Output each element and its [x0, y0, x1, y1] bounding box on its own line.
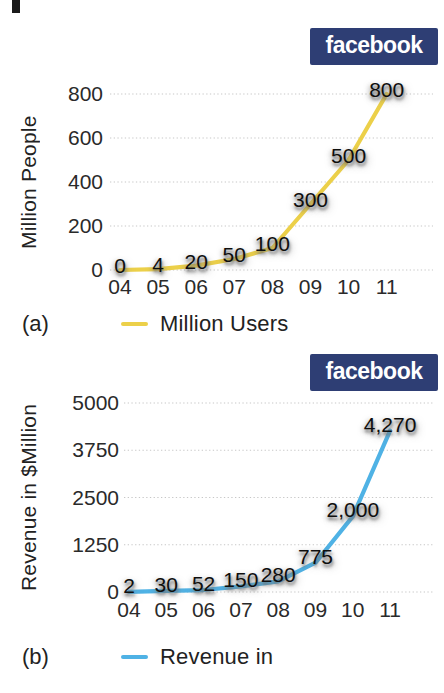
x-tick-label: 08: [258, 599, 298, 621]
x-tick-label: 07: [214, 276, 254, 298]
x-tick-label: 08: [252, 276, 292, 298]
x-tick-label: 06: [184, 599, 224, 621]
x-tick-label: 10: [329, 276, 369, 298]
x-tick-label: 09: [291, 276, 331, 298]
legend-label-b: Revenue in: [160, 644, 273, 670]
figure-page: facebook Million People (a) Million User…: [0, 0, 444, 693]
x-tick-label: 05: [146, 599, 186, 621]
chart-panel-a: facebook Million People (a) Million User…: [0, 0, 444, 330]
x-tick-label: 11: [370, 599, 410, 621]
legend-line-swatch-a: [121, 322, 148, 326]
chart-panel-b: facebook Revenue in $Million (b) Revenue…: [0, 330, 444, 693]
data-point-label: 500: [304, 145, 394, 167]
x-tick-label: 10: [333, 599, 373, 621]
x-tick-label: 09: [296, 599, 336, 621]
panel-label-b: (b): [22, 644, 49, 670]
y-tick-label: 200: [39, 215, 103, 237]
y-tick-label: 800: [39, 83, 103, 105]
data-point-label: 800: [342, 79, 432, 101]
y-tick-label: 3750: [55, 439, 119, 461]
data-point-label: 2,000: [308, 499, 398, 521]
legend-b: (b) Revenue in: [0, 644, 444, 670]
x-tick-label: 04: [100, 276, 140, 298]
y-tick-label: 5000: [55, 392, 119, 414]
x-tick-label: 04: [109, 599, 149, 621]
x-tick-label: 05: [138, 276, 178, 298]
y-tick-label: 1250: [55, 534, 119, 556]
data-point-label: 100: [227, 233, 317, 255]
x-tick-label: 07: [221, 599, 261, 621]
y-tick-label: 600: [39, 127, 103, 149]
y-tick-label: 2500: [55, 487, 119, 509]
x-tick-label: 06: [176, 276, 216, 298]
data-point-label: 4,270: [345, 414, 435, 436]
legend-line-swatch-b: [121, 655, 148, 659]
data-point-label: 775: [271, 546, 361, 568]
x-tick-label: 11: [367, 276, 407, 298]
y-tick-label: 400: [39, 171, 103, 193]
data-point-label: 300: [266, 189, 356, 211]
